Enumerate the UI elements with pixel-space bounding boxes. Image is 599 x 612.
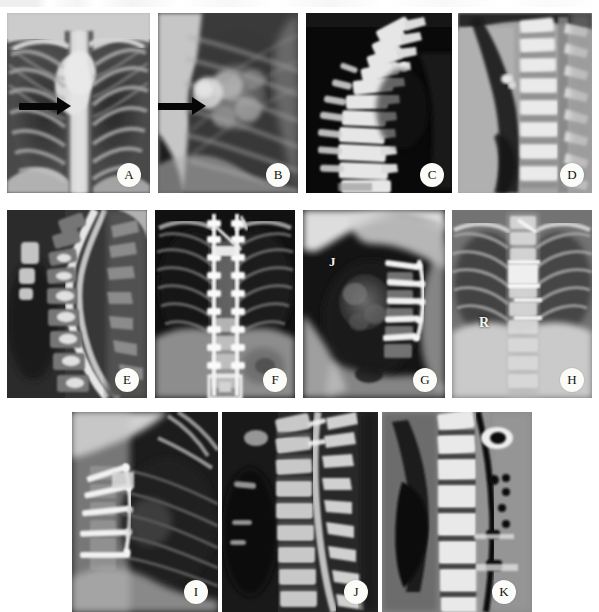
panel-label-g: G [413, 368, 437, 392]
panel-f: F [155, 210, 295, 398]
pointer-arrow-panel-b [158, 97, 206, 115]
scan-artifact-streak [0, 0, 599, 7]
panel-label-a: A [117, 163, 141, 187]
panel-label-c: C [420, 163, 444, 187]
side-marker-r: R [479, 315, 489, 331]
panel-d: D [458, 13, 592, 193]
panel-b: B [158, 13, 298, 193]
panel-label-e: E [115, 368, 139, 392]
panel-g: J G [303, 210, 445, 398]
figure-container: A [0, 0, 599, 612]
panel-label-i: I [184, 580, 208, 604]
side-marker-j: J [329, 254, 336, 270]
panel-k: K [382, 412, 532, 612]
panel-label-d: D [560, 163, 584, 187]
panel-label-b: B [266, 163, 290, 187]
panel-h: R H [452, 210, 592, 398]
pointer-arrow-panel-a [19, 97, 71, 115]
panel-c: C [306, 13, 452, 193]
panel-e: E [7, 210, 147, 398]
panel-j: J [222, 412, 378, 612]
panel-i: I [72, 412, 218, 612]
panel-label-j: J [344, 580, 368, 604]
panel-label-f: F [263, 368, 287, 392]
panel-label-h: H [560, 368, 584, 392]
panel-label-k: K [492, 580, 516, 604]
panel-a: A [7, 13, 150, 193]
